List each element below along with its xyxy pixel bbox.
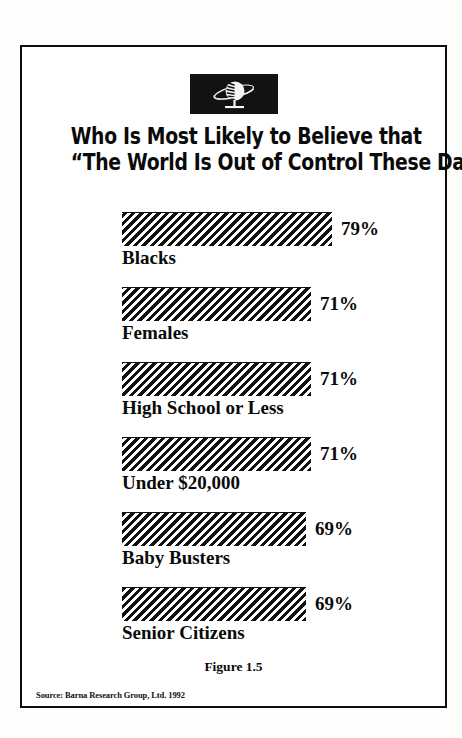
source-note: Source: Barna Research Group, Ltd. 1992 (36, 690, 185, 700)
bar (122, 512, 306, 546)
bar-category-label: Females (122, 322, 188, 344)
bar-group: 69% (122, 512, 353, 546)
bar-group: 71% (122, 287, 358, 321)
bar (122, 587, 306, 621)
bar-value-label: 71% (320, 293, 358, 315)
title-line-1: Who Is Most Likely to Believe that (71, 123, 397, 149)
chart-row: 79% Blacks (22, 212, 445, 287)
bar (122, 212, 332, 246)
title-line-2: “The World Is Out of Control These Days”… (71, 149, 397, 175)
chart-row: 69% Senior Citizens (22, 587, 445, 662)
bar-group: 71% (122, 362, 358, 396)
bar-category-label: Baby Busters (122, 547, 230, 569)
bar-value-label: 69% (315, 518, 353, 540)
bar-value-label: 71% (320, 443, 358, 465)
chart-row: 69% Baby Busters (22, 512, 445, 587)
bar-chart: 79% Blacks 71% Females 71% High School o… (22, 212, 445, 662)
bar-category-label: Under $20,000 (122, 472, 240, 494)
bar-category-label: Senior Citizens (122, 622, 245, 644)
bar (122, 437, 311, 471)
globe-on-stand-icon (190, 74, 278, 114)
bar-category-label: Blacks (122, 247, 176, 269)
figure-caption: Figure 1.5 (22, 659, 445, 675)
scanned-page: Who Is Most Likely to Believe that “The … (0, 0, 462, 738)
bar-group: 79% (122, 212, 379, 246)
chart-row: 71% Females (22, 287, 445, 362)
chart-row: 71% Under $20,000 (22, 437, 445, 512)
bar (122, 287, 311, 321)
bar-value-label: 69% (315, 593, 353, 615)
chart-row: 71% High School or Less (22, 362, 445, 437)
bar-value-label: 79% (341, 218, 379, 240)
bar-group: 71% (122, 437, 358, 471)
bar-group: 69% (122, 587, 353, 621)
bar-category-label: High School or Less (122, 397, 284, 419)
page-title: Who Is Most Likely to Believe that “The … (71, 123, 397, 176)
bar (122, 362, 311, 396)
bar-value-label: 71% (320, 368, 358, 390)
logo-container (22, 74, 445, 114)
figure-border-frame: Who Is Most Likely to Believe that “The … (20, 45, 447, 708)
